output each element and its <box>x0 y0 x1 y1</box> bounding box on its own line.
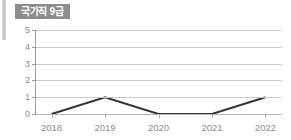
gridline-y-3 <box>35 64 282 65</box>
y-axis-label-4: 4 <box>25 42 30 51</box>
y-axis-label-1: 1 <box>25 93 30 102</box>
x-tick-2021 <box>212 114 213 118</box>
chart-title-badge: 국가직 9급 <box>15 4 70 19</box>
y-axis-label-0: 0 <box>25 110 30 119</box>
x-axis-label-2020: 2020 <box>148 123 169 133</box>
gridline-y-4 <box>35 47 282 48</box>
y-tick-1 <box>32 97 36 98</box>
gridline-y-2 <box>35 80 282 81</box>
y-tick-3 <box>32 64 36 65</box>
gridline-y-5 <box>35 30 282 31</box>
x-tick-2020 <box>159 114 160 118</box>
plot-area: 01234520182019202020212022 <box>35 30 282 114</box>
x-tick-2022 <box>265 114 266 118</box>
x-axis-label-2022: 2022 <box>255 123 276 133</box>
y-tick-5 <box>32 30 36 31</box>
x-axis-label-2021: 2021 <box>201 123 222 133</box>
gridline-y-1 <box>35 97 282 98</box>
y-axis-label-2: 2 <box>25 76 30 85</box>
x-axis-label-2019: 2019 <box>94 123 115 133</box>
x-tick-2019 <box>105 114 106 118</box>
y-axis-label-5: 5 <box>25 26 30 35</box>
y-axis-label-3: 3 <box>25 59 30 68</box>
line-chart: 01234520182019202020212022 <box>0 22 291 140</box>
x-tick-2018 <box>52 114 53 118</box>
y-tick-4 <box>32 47 36 48</box>
y-tick-0 <box>32 114 36 115</box>
series-line-national-grade-9 <box>35 30 282 114</box>
y-tick-2 <box>32 80 36 81</box>
chart-panel: 국가직 9급 01234520182019202020212022 <box>0 0 291 140</box>
x-axis-label-2018: 2018 <box>41 123 62 133</box>
